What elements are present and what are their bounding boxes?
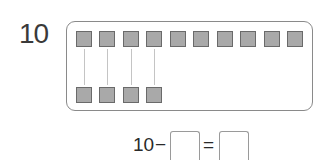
connector-line xyxy=(107,49,108,85)
minus-sign: − xyxy=(155,131,166,159)
problem-number: 10 xyxy=(19,19,48,49)
square xyxy=(146,87,162,103)
square xyxy=(193,31,209,47)
square xyxy=(76,87,92,103)
square xyxy=(99,31,115,47)
square xyxy=(123,87,139,103)
connector-line xyxy=(131,49,132,85)
square xyxy=(76,31,92,47)
connector-line xyxy=(84,49,85,85)
square xyxy=(170,31,186,47)
square xyxy=(264,31,280,47)
square xyxy=(287,31,303,47)
answer-box-1[interactable] xyxy=(170,131,200,160)
answer-box-2[interactable] xyxy=(219,131,249,160)
left-operand: 10 xyxy=(133,131,154,159)
connector-line xyxy=(154,49,155,85)
equals-sign: = xyxy=(203,131,214,159)
square xyxy=(146,31,162,47)
square xyxy=(123,31,139,47)
square xyxy=(240,31,256,47)
square xyxy=(217,31,233,47)
square xyxy=(99,87,115,103)
